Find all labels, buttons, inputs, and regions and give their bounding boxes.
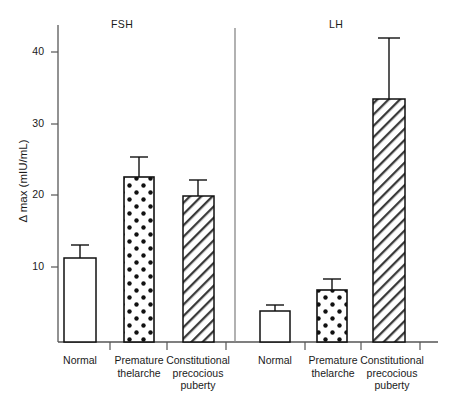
bar-lh-constitutional-precocious-puberty — [373, 38, 405, 342]
panel-title-fsh: FSH — [111, 18, 133, 30]
x-label-fsh-constitutional-precocious-puberty: Constitutional precocious puberty — [161, 354, 235, 392]
y-tick-label-40: 40 — [22, 45, 44, 57]
bar-fsh-normal — [64, 245, 96, 342]
bar-lh-premature-thelarche — [317, 279, 347, 342]
y-tick-label-20: 20 — [22, 188, 44, 200]
panel-title-lh: LH — [329, 18, 343, 30]
y-axis-title: Δ max (mIU/mL) — [17, 116, 29, 246]
y-tick-label-10: 10 — [22, 260, 44, 272]
x-axis-ticks — [110, 342, 420, 350]
bar-fsh-constitutional-precocious-puberty — [183, 180, 214, 342]
figure-container: FSH LH Δ max (mIU/mL) 10 20 30 40 Normal… — [0, 0, 450, 406]
bar-fsh-premature-thelarche — [124, 157, 154, 342]
x-label-lh-constitutional-precocious-puberty: Constitutional precocious puberty — [355, 354, 429, 392]
y-axis-ticks — [51, 52, 58, 267]
bar-chart-plot — [0, 0, 450, 406]
y-tick-label-30: 30 — [22, 117, 44, 129]
bar-lh-normal — [260, 305, 290, 342]
